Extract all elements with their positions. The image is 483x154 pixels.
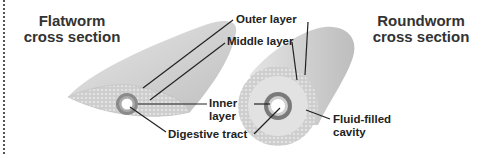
- middle-layer-label: Middle layer: [227, 35, 293, 48]
- fluid-filled-cavity-label-line2: cavity: [333, 126, 391, 139]
- digestive-tract-label: Digestive tract: [168, 128, 247, 141]
- roundworm-title: Roundworm cross section: [366, 13, 476, 45]
- outer-layer-label: Outer layer: [236, 13, 297, 26]
- fluid-filled-cavity-label-line1: Fluid-filled: [333, 113, 391, 126]
- flatworm-title-line1: Flatworm: [22, 13, 122, 29]
- fluid-filled-cavity-label: Fluid-filled cavity: [333, 113, 391, 139]
- inner-layer-label: Inner layer: [209, 97, 237, 123]
- roundworm-title-line1: Roundworm: [366, 13, 476, 29]
- flatworm-title: Flatworm cross section: [22, 13, 122, 45]
- inner-layer-label-line1: Inner: [209, 97, 237, 110]
- roundworm-title-line2: cross section: [366, 29, 476, 45]
- inner-layer-label-line2: layer: [209, 110, 237, 123]
- flatworm-title-line2: cross section: [22, 29, 122, 45]
